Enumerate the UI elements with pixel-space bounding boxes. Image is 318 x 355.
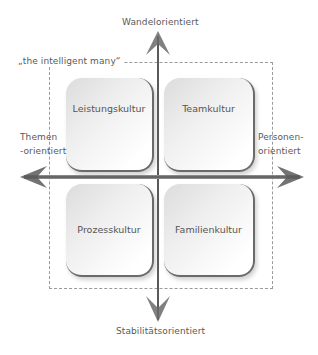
axis-label-left-2: -orientiert (20, 146, 66, 156)
axis-label-left-1: Themen (20, 132, 57, 142)
axis-label-top: Wandelorientiert (122, 17, 199, 27)
axis-label-right-1: Personen- (258, 132, 304, 142)
axes (0, 0, 318, 355)
axis-label-bottom: Stabilitätsorientiert (116, 326, 205, 336)
axis-label-right-2: orientiert (258, 146, 301, 156)
